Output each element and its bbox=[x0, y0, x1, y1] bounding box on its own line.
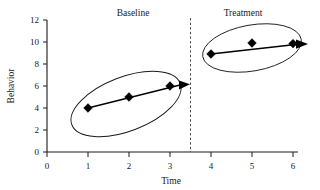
x-tick-label-4: 4 bbox=[209, 161, 214, 171]
treatment-series-group bbox=[199, 17, 308, 80]
baseline-phase-label: Baseline bbox=[117, 8, 150, 18]
x-tick-label-6: 6 bbox=[291, 161, 296, 171]
baseline-trend-arrowhead bbox=[179, 81, 190, 90]
x-tick-label-2: 2 bbox=[127, 161, 132, 171]
baseline-trend-line bbox=[88, 85, 180, 108]
y-tick-label-4: 4 bbox=[35, 103, 40, 113]
chart-canvas: 12 10 8 6 4 2 0 0 1 2 3 4 5 6 Time Be bbox=[0, 0, 320, 190]
x-tick-label-5: 5 bbox=[250, 161, 255, 171]
y-tick-label-2: 2 bbox=[35, 125, 40, 135]
baseline-envelope-ellipse bbox=[62, 58, 190, 150]
y-tick-label-10: 10 bbox=[30, 37, 40, 47]
treatment-marker-2 bbox=[248, 39, 257, 48]
treatment-envelope-ellipse bbox=[199, 17, 305, 80]
baseline-marker-1 bbox=[84, 104, 93, 113]
treatment-trend-arrowhead bbox=[296, 40, 308, 49]
baseline-marker-2 bbox=[125, 93, 134, 102]
y-tick-label-12: 12 bbox=[30, 15, 39, 25]
y-tick-group: 12 10 8 6 4 2 0 bbox=[30, 15, 47, 157]
x-tick-group: 0 1 2 3 4 5 6 bbox=[45, 152, 296, 171]
y-tick-label-8: 8 bbox=[35, 59, 40, 69]
single-case-design-chart: 12 10 8 6 4 2 0 0 1 2 3 4 5 6 Time Be bbox=[0, 0, 320, 190]
x-tick-label-1: 1 bbox=[86, 161, 91, 171]
treatment-marker-1 bbox=[207, 50, 216, 59]
y-axis-title: Behavior bbox=[6, 68, 16, 104]
treatment-phase-label: Treatment bbox=[224, 8, 263, 18]
y-tick-label-6: 6 bbox=[35, 81, 40, 91]
y-tick-label-0: 0 bbox=[35, 147, 40, 157]
treatment-trend-line bbox=[211, 44, 300, 54]
x-axis-title: Time bbox=[161, 176, 181, 186]
x-tick-label-3: 3 bbox=[168, 161, 173, 171]
baseline-series-group bbox=[62, 58, 190, 150]
x-tick-label-0: 0 bbox=[45, 161, 50, 171]
